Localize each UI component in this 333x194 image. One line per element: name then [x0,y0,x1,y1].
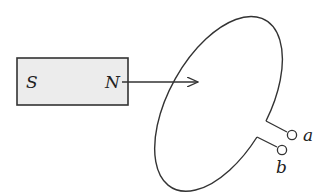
terminal-a-icon [287,130,296,139]
lead-b-wire [257,137,277,147]
north-pole-label: N [104,72,121,92]
terminal-b-label: b [276,157,287,177]
bar-magnet: S N [17,58,128,105]
south-pole-label: S [26,72,38,92]
loop-ellipse [155,16,283,191]
wire-loop: a b [155,16,313,191]
terminal-b-icon [277,145,286,154]
diagram-canvas: S N a b [0,0,333,194]
terminal-a-label: a [303,125,313,145]
lead-a-wire [266,121,287,132]
